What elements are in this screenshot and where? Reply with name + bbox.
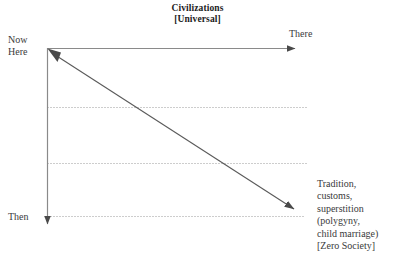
side-annotation-line-1: Tradition, [317,178,378,190]
x-axis-end-label-there: There [289,28,312,40]
civilizations-diagram: Civilizations [Universal] [0,0,395,266]
side-annotation-line-3: superstition [317,203,378,215]
y-axis-top-label-here: Here [8,46,27,58]
side-annotation-line-2: customs, [317,190,378,202]
side-annotation-block: Tradition, customs, superstition (polygy… [317,178,378,252]
y-axis-top-label-now: Now [8,34,27,46]
side-annotation-line-5: child marriage) [317,228,378,240]
y-axis-bottom-label-then: Then [8,211,29,223]
trajectory-arrowhead-origin [48,49,62,63]
trajectory-arrow-line [56,56,294,210]
side-annotation-line-6: [Zero Society] [317,240,378,252]
side-annotation-line-4: (polygyny, [317,215,378,227]
